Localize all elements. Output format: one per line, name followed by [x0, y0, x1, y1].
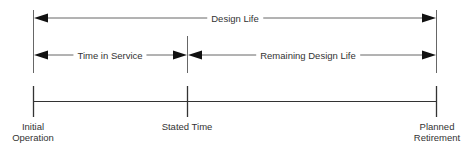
- initial-operation-label: Initial Operation: [12, 121, 54, 143]
- planned-retirement-label: Planned Retirement: [414, 121, 460, 143]
- time-in-service-label: Time in Service: [73, 50, 146, 61]
- planned-retirement-line1: Planned: [414, 121, 460, 132]
- initial-operation-line1: Initial: [12, 121, 54, 132]
- design-life-diagram: Design Life Time in Service Remaining De…: [0, 0, 470, 145]
- remaining-life-left-arrow-icon: [188, 51, 202, 60]
- stated-time-label: Stated Time: [162, 121, 213, 132]
- time-in-service-right-arrow-icon: [173, 51, 187, 60]
- stated-time-line1: Stated Time: [162, 121, 213, 132]
- design-life-left-arrow-icon: [34, 14, 48, 23]
- design-life-label: Design Life: [207, 13, 263, 24]
- remaining-design-life-label: Remaining Design Life: [256, 50, 360, 61]
- remaining-life-right-arrow-icon: [422, 51, 436, 60]
- design-life-right-arrow-icon: [422, 14, 436, 23]
- planned-retirement-line2: Retirement: [414, 132, 460, 143]
- time-in-service-left-arrow-icon: [34, 51, 48, 60]
- initial-operation-line2: Operation: [12, 132, 54, 143]
